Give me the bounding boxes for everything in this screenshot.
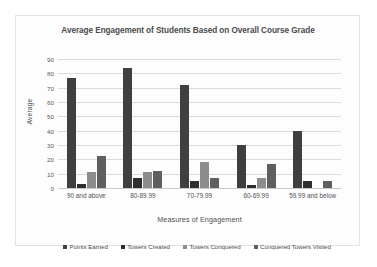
- bar: [133, 178, 142, 188]
- bar: [210, 178, 219, 188]
- legend-swatch-icon: [254, 245, 258, 249]
- y-axis-tick-40: 40: [30, 127, 54, 134]
- chart-title: Average Engagement of Students Based on …: [42, 25, 334, 37]
- x-axis-category-labels: 90 and above80-89.9970-79.9960-69.9959.9…: [58, 192, 341, 200]
- legend-label: Towers Created: [127, 243, 170, 250]
- bar: [87, 172, 96, 188]
- legend-item-4: Conquered Towers Visited: [254, 243, 331, 250]
- legend-item-3: Towers Conquered: [183, 243, 241, 250]
- y-axis-tick-labels: 9080706050403020100: [30, 59, 54, 188]
- bar: [77, 184, 86, 188]
- bar: [123, 68, 132, 188]
- x-axis-label-4: 60-69.99: [228, 192, 285, 200]
- bar: [303, 181, 312, 188]
- bar: [190, 181, 199, 188]
- bar-groups: [58, 59, 341, 188]
- x-axis-label-5: 59.99 and below: [284, 192, 341, 200]
- legend-label: Points Earned: [70, 243, 108, 250]
- plot-area: [58, 59, 341, 188]
- legend-swatch-icon: [121, 245, 125, 249]
- chart-legend: Points EarnedTowers CreatedTowers Conque…: [32, 243, 362, 250]
- bar: [200, 162, 209, 188]
- x-axis-label-1: 90 and above: [58, 192, 115, 200]
- y-axis-tick-30: 30: [30, 142, 54, 149]
- bar: [247, 185, 256, 188]
- y-axis-tick-0: 0: [30, 185, 54, 192]
- chart-container: Average Engagement of Students Based on …: [15, 15, 360, 246]
- legend-swatch-icon: [183, 245, 187, 249]
- y-axis-tick-10: 10: [30, 170, 54, 177]
- legend-item-1: Points Earned: [63, 243, 108, 250]
- bar-group-5: [284, 59, 341, 188]
- y-axis-tick-70: 70: [30, 84, 54, 91]
- x-axis-label-2: 80-89.99: [115, 192, 172, 200]
- legend-item-2: Towers Created: [121, 243, 170, 250]
- bar: [323, 181, 332, 188]
- gridline: [58, 188, 341, 189]
- bar: [153, 171, 162, 188]
- bar: [237, 145, 246, 188]
- bar: [180, 85, 189, 188]
- x-axis-title: Measures of Engagement: [58, 215, 341, 224]
- x-axis-label-3: 70-79.99: [171, 192, 228, 200]
- bar: [267, 164, 276, 188]
- y-axis-tick-20: 20: [30, 156, 54, 163]
- y-axis-tick-60: 60: [30, 99, 54, 106]
- bar: [293, 131, 302, 188]
- bar-group-4: [228, 59, 285, 188]
- bar-group-3: [171, 59, 228, 188]
- bar: [143, 172, 152, 188]
- bar: [67, 78, 76, 188]
- legend-label: Towers Conquered: [189, 243, 240, 250]
- bar: [257, 178, 266, 188]
- y-axis-tick-50: 50: [30, 113, 54, 120]
- bar-group-2: [115, 59, 172, 188]
- y-axis-tick-80: 80: [30, 70, 54, 77]
- legend-swatch-icon: [63, 245, 67, 249]
- bar: [97, 156, 106, 188]
- y-axis-tick-90: 90: [30, 56, 54, 63]
- bar-group-1: [58, 59, 115, 188]
- legend-label: Conquered Towers Visited: [260, 243, 331, 250]
